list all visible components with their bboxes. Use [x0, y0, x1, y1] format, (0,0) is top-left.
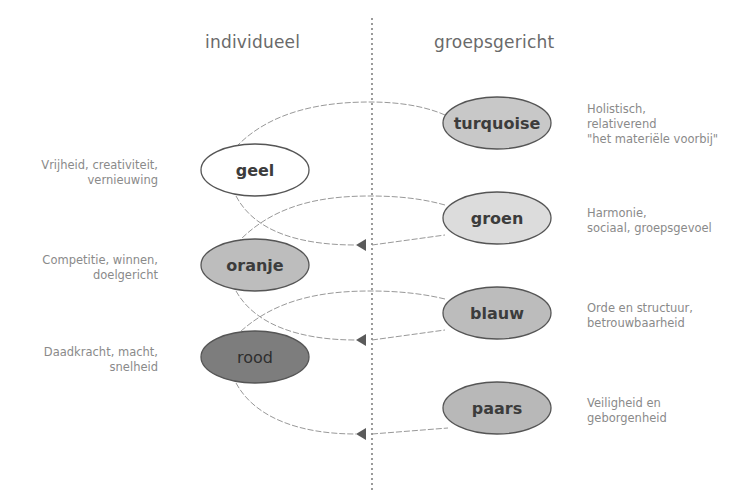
description-line: Vrijheid, creativiteit, — [41, 158, 158, 173]
ellipse-turquoise: turquoise — [443, 97, 551, 149]
connector-arrow-groen — [372, 235, 445, 245]
connector-geel-arrow — [236, 196, 356, 245]
ellipse-paars: paars — [443, 382, 551, 434]
description-blauw: Orde en structuur, betrouwbaarheid — [587, 301, 693, 331]
arrow-left-icon — [356, 428, 366, 440]
description-line: Daadkracht, macht, — [44, 345, 158, 360]
ellipse-rood: rood — [201, 331, 309, 383]
description-line: vernieuwing — [41, 173, 158, 188]
description-line: Holistisch, — [587, 102, 718, 117]
description-rood: Daadkracht, macht, snelheid — [44, 345, 158, 375]
ellipse-blauw: blauw — [443, 287, 551, 339]
description-paars: Veiligheid en geborgenheid — [587, 396, 667, 426]
label-groen: groen — [471, 209, 524, 228]
label-turquoise: turquoise — [454, 114, 541, 133]
label-geel: geel — [236, 161, 275, 180]
description-line: relativerend — [587, 117, 718, 132]
connector-arrow-blauw — [372, 330, 445, 340]
ellipse-groen: groen — [443, 192, 551, 244]
arrow-left-icon — [356, 334, 366, 346]
ellipse-geel: geel — [201, 144, 309, 196]
description-line: "het materiële voorbij" — [587, 132, 718, 147]
label-paars: paars — [472, 399, 522, 418]
description-line: Orde en structuur, — [587, 301, 693, 316]
description-groen: Harmonie, sociaal, groepsgevoel — [587, 206, 712, 236]
connector-groen-oranje — [240, 196, 445, 240]
description-line: Harmonie, — [587, 206, 712, 221]
arrow-left-icon — [356, 239, 366, 251]
connector-blauw-rood — [240, 291, 445, 332]
label-rood: rood — [237, 348, 273, 367]
connector-rood-arrow — [236, 383, 356, 434]
label-oranje: oranje — [226, 256, 284, 275]
description-line: geborgenheid — [587, 411, 667, 426]
description-line: sociaal, groepsgevoel — [587, 221, 712, 236]
connector-turquoise-geel — [238, 102, 445, 145]
description-line: doelgericht — [42, 268, 158, 283]
description-turquoise: Holistisch, relativerend "het materiële … — [587, 102, 718, 147]
description-oranje: Competitie, winnen, doelgericht — [42, 253, 158, 283]
ellipse-oranje: oranje — [201, 239, 309, 291]
connector-arrow-paars — [372, 428, 448, 434]
description-geel: Vrijheid, creativiteit, vernieuwing — [41, 158, 158, 188]
description-line: Competitie, winnen, — [42, 253, 158, 268]
description-line: betrouwbaarheid — [587, 316, 693, 331]
description-line: Veiligheid en — [587, 396, 667, 411]
label-blauw: blauw — [470, 304, 524, 323]
spiral-dynamics-diagram: individueel groepsgericht — [0, 0, 753, 500]
description-line: snelheid — [44, 360, 158, 375]
